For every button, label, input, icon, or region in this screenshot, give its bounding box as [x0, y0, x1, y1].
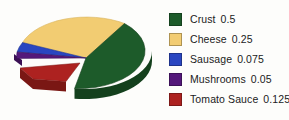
- legend-swatch-mushrooms: [169, 73, 182, 86]
- pie-svg: [0, 0, 168, 120]
- legend-label-crust: Crust0.5: [190, 13, 236, 25]
- pie-chart-graphic: [0, 0, 168, 120]
- legend-item-crust[interactable]: Crust0.5: [169, 9, 289, 29]
- legend-label-cheese: Cheese0.25: [190, 33, 253, 45]
- pie-chart-figure: Crust0.5 Cheese0.25 Sausage0.075 Mushroo…: [0, 0, 289, 120]
- legend-value-sausage: 0.075: [237, 53, 264, 65]
- legend-label-sausage: Sausage0.075: [190, 53, 264, 65]
- legend-label-crust-text: Crust: [190, 13, 216, 25]
- legend-item-mushrooms[interactable]: Mushrooms0.05: [169, 69, 289, 89]
- legend-item-sausage[interactable]: Sausage0.075: [169, 49, 289, 69]
- legend-label-tomato-sauce: Tomato Sauce0.125: [190, 93, 289, 105]
- legend-label-mushrooms-text: Mushrooms: [190, 73, 246, 85]
- legend-label-tomato-sauce-text: Tomato Sauce: [190, 93, 258, 105]
- legend-swatch-sausage: [169, 53, 182, 66]
- legend-item-cheese[interactable]: Cheese0.25: [169, 29, 289, 49]
- legend-value-tomato-sauce: 0.125: [263, 93, 289, 105]
- legend-item-tomato-sauce[interactable]: Tomato Sauce0.125: [169, 89, 289, 109]
- legend-value-mushrooms: 0.05: [251, 73, 272, 85]
- legend-label-sausage-text: Sausage: [190, 53, 232, 65]
- legend-value-cheese: 0.25: [232, 33, 253, 45]
- legend-label-mushrooms: Mushrooms0.05: [190, 73, 272, 85]
- legend-label-cheese-text: Cheese: [190, 33, 227, 45]
- legend-swatch-tomato-sauce: [169, 93, 182, 106]
- legend-value-crust: 0.5: [221, 13, 236, 25]
- legend-swatch-cheese: [169, 33, 182, 46]
- chart-legend: Crust0.5 Cheese0.25 Sausage0.075 Mushroo…: [169, 9, 289, 109]
- legend-swatch-crust: [169, 13, 182, 26]
